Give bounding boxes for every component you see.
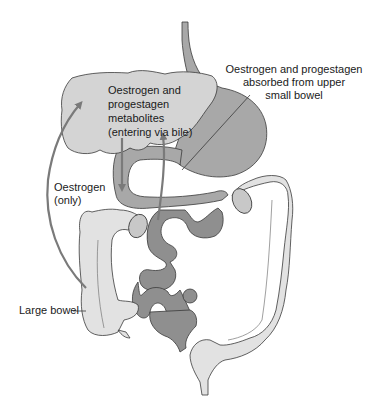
metabolites-label-line4: (entering via bile) (108, 126, 192, 139)
large-bowel-label: Large bowel (19, 304, 79, 317)
large-bowel-label-text: Large bowel (19, 304, 79, 316)
metabolites-label-line1: Oestrogen and (108, 84, 192, 97)
absorbed-label: Oestrogen and progestagen absorbed from … (224, 63, 364, 102)
absorbed-label-line1: Oestrogen and progestagen (224, 63, 364, 76)
metabolites-label: Oestrogen and progestagen metabolites (e… (108, 84, 192, 139)
metabolites-label-line2: progestagen (108, 98, 192, 111)
absorbed-label-line3: small bowel (224, 89, 364, 102)
absorbed-label-line2: absorbed from upper (224, 76, 364, 89)
large-bowel (79, 176, 293, 396)
metabolites-label-line3: metabolites (108, 112, 192, 125)
oestrogen-only-label-line2: (only) (54, 194, 105, 207)
oestrogen-only-label: Oestrogen (only) (54, 181, 105, 207)
oestrogen-only-label-line1: Oestrogen (54, 181, 105, 194)
